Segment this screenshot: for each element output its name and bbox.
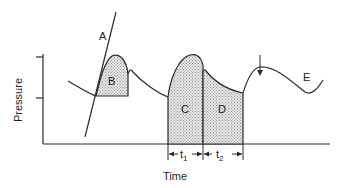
pressure-time-diagram: A B C D E t1 t2 Time Pressure [0,0,340,188]
x-axis-label: Time [163,170,187,182]
label-d: D [218,103,226,115]
label-c: C [181,103,189,115]
t1-label: t1 [180,148,188,163]
t2-label: t2 [216,148,224,163]
label-e: E [303,71,310,83]
region-c [168,55,203,144]
y-axis-label: Pressure [12,78,24,122]
label-a: A [99,30,107,42]
label-b: B [108,75,115,87]
down-arrow-icon [257,55,263,76]
